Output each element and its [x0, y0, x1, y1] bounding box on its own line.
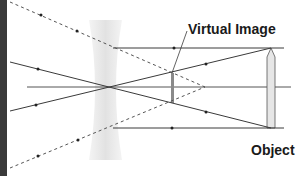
ray-through-center-1 — [10, 48, 271, 111]
object-arrow — [267, 48, 275, 128]
arrow-marker — [205, 63, 208, 66]
arrow-marker — [35, 104, 38, 107]
arrow-marker — [77, 139, 80, 142]
arrow-marker — [76, 30, 79, 33]
arrow-marker — [173, 47, 176, 50]
ray-through-center-2 — [10, 62, 271, 128]
arrow-marker — [37, 68, 40, 71]
virtual-image-bar — [171, 73, 174, 103]
arrow-marker — [205, 111, 208, 114]
ray-diagram: Virtual Image Object — [0, 0, 302, 176]
arrow-marker — [171, 127, 174, 130]
arrow-marker — [40, 14, 43, 17]
virtual-image-leader — [172, 31, 187, 73]
arrow-marker — [37, 155, 40, 158]
object-label: Object — [251, 142, 295, 158]
concave-lens — [89, 20, 122, 160]
virtual-image-label: Virtual Image — [188, 21, 276, 37]
